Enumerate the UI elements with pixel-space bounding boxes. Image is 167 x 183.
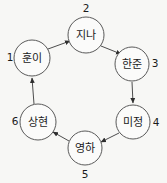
node-index-label-5: 5 — [82, 168, 89, 180]
node-5[interactable]: 영하 — [68, 131, 102, 165]
node-label-1: 훈이 — [22, 52, 42, 65]
node-label-3: 한준 — [122, 58, 142, 71]
node-label-2: 지나 — [76, 29, 96, 42]
node-index-label-6: 6 — [12, 115, 19, 127]
diagram-canvas: 훈이지나한준미정영하상현 123456 — [0, 0, 167, 183]
node-index-label-3: 3 — [152, 57, 159, 69]
nodes-group: 훈이지나한준미정영하상현 — [14, 17, 150, 165]
node-label-4: 미정 — [123, 116, 143, 129]
node-3[interactable]: 한준 — [115, 47, 149, 81]
node-2[interactable]: 지나 — [68, 17, 104, 53]
node-index-label-4: 4 — [153, 116, 160, 128]
node-1[interactable]: 훈이 — [14, 40, 50, 76]
node-6[interactable]: 상현 — [20, 104, 56, 140]
edge-6-to-1 — [32, 78, 34, 104]
edge-3-to-4 — [132, 82, 133, 103]
node-label-6: 상현 — [28, 116, 48, 129]
edge-1-to-2 — [48, 41, 70, 49]
node-index-label-1: 1 — [7, 51, 14, 63]
edge-4-to-5 — [101, 133, 119, 142]
edge-5-to-6 — [53, 132, 69, 141]
edge-2-to-3 — [101, 46, 121, 54]
node-4[interactable]: 미정 — [116, 105, 150, 139]
node-label-5: 영하 — [75, 141, 95, 155]
node-index-label-2: 2 — [83, 2, 90, 14]
cycle-diagram: 훈이지나한준미정영하상현 123456 — [0, 0, 167, 183]
